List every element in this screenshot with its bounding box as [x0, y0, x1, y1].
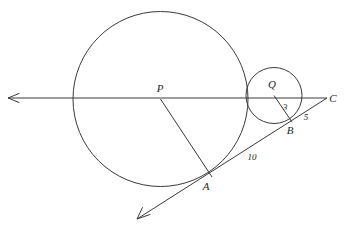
radius-segment-PA — [161, 99, 213, 177]
label-point-C: C — [329, 92, 337, 104]
label-point-A: A — [202, 180, 210, 192]
label-length-radius-small: 3 — [282, 102, 288, 112]
tangent-line-ABC — [137, 98, 327, 219]
geometry-figure: P Q A B C 3 5 10 — [0, 0, 345, 228]
label-point-Q: Q — [268, 78, 276, 90]
label-length-ac: 10 — [248, 152, 258, 162]
label-length-bc: 5 — [304, 112, 309, 122]
label-point-B: B — [287, 124, 294, 136]
label-point-P: P — [156, 82, 164, 94]
geometry-diagram-canvas: P Q A B C 3 5 10 — [0, 0, 345, 228]
